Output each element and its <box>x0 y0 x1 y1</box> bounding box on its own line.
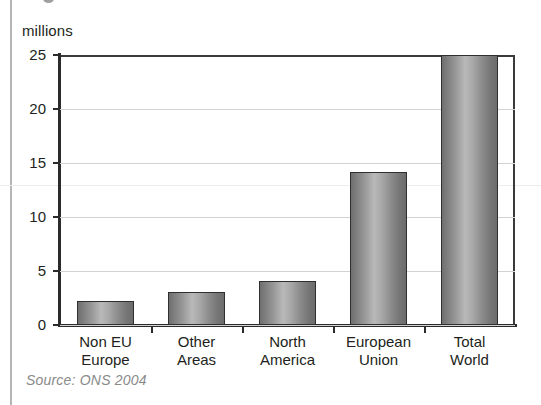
y-axis-tick-label: 0 <box>0 316 46 333</box>
y-axis-tick-label: 10 <box>0 208 46 225</box>
bar <box>168 292 225 325</box>
y-axis-tick <box>53 162 60 164</box>
x-axis-tick-label: OtherAreas <box>151 333 242 369</box>
x-axis-tick <box>424 326 426 333</box>
bar <box>441 55 498 325</box>
y-axis-line <box>58 53 61 327</box>
bar-chart-figure: millions 0510152025 Non EUEuropeOtherAre… <box>0 0 541 405</box>
y-axis-tick <box>53 54 60 56</box>
x-axis-tick-label: NorthAmerica <box>242 333 333 369</box>
y-axis-tick <box>53 270 60 272</box>
y-axis-tick <box>53 216 60 218</box>
x-axis-tick-label: Non EUEurope <box>60 333 151 369</box>
source-note: Source: ONS 2004 <box>26 372 147 388</box>
bar <box>259 281 316 325</box>
gridline <box>60 325 515 326</box>
bar <box>77 301 134 325</box>
y-axis-unit-label: millions <box>22 22 73 39</box>
y-axis-tick-label: 5 <box>0 262 46 279</box>
y-axis-tick <box>53 108 60 110</box>
y-axis-tick-label: 20 <box>0 100 46 117</box>
x-axis-tick <box>242 326 244 333</box>
y-axis-tick-label: 15 <box>0 154 46 171</box>
y-axis-tick-label: 25 <box>0 46 46 63</box>
x-axis-tick-label: TotalWorld <box>424 333 515 369</box>
x-axis-tick <box>333 326 335 333</box>
bar <box>350 172 407 325</box>
x-axis-tick-label: EuropeanUnion <box>333 333 424 369</box>
x-axis-tick <box>151 326 153 333</box>
y-axis-tick <box>53 324 60 326</box>
